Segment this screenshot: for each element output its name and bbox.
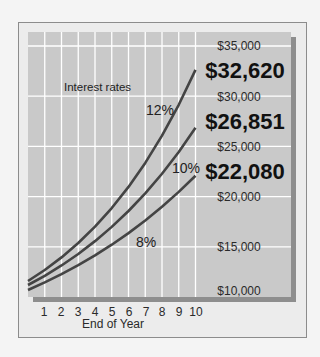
legend-title: Interest rates — [64, 81, 131, 93]
y-tick-15000: $15,000 — [210, 241, 268, 253]
y-tick-10000: $10,000 — [210, 285, 268, 297]
final-value-8: $22,080 — [202, 160, 288, 184]
y-tick-30000: $30,000 — [210, 91, 268, 103]
series-label-12: 12% — [146, 102, 174, 118]
series-label-8: 8% — [136, 234, 156, 250]
x-axis-label: End of Year — [73, 317, 153, 331]
series-label-10: 10% — [172, 160, 200, 176]
final-value-10: $26,851 — [202, 110, 288, 134]
x-tick-10: 10 — [186, 305, 206, 319]
y-tick-25000: $25,000 — [210, 141, 268, 153]
y-tick-35000: $35,000 — [210, 40, 268, 52]
final-value-12: $32,620 — [202, 59, 288, 83]
y-tick-20000: $20,000 — [210, 191, 268, 203]
